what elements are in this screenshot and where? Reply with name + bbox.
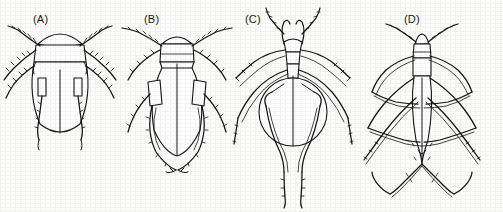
specimen-c-drawing — [228, 0, 358, 212]
panel-a-label: (A) — [33, 13, 48, 25]
panel-a: (A) — [0, 0, 120, 212]
panel-c-label: (C) — [245, 13, 261, 25]
panel-d: (D) — [348, 0, 503, 212]
panel-c: (C) — [228, 0, 358, 212]
specimen-a-drawing — [0, 0, 120, 212]
panel-b-label: (B) — [144, 13, 159, 25]
figure-plate: (A) — [0, 0, 503, 212]
panel-d-label: (D) — [404, 13, 420, 25]
specimen-b-drawing — [118, 0, 236, 212]
panel-b: (B) — [118, 0, 236, 212]
specimen-d-drawing — [348, 0, 503, 212]
